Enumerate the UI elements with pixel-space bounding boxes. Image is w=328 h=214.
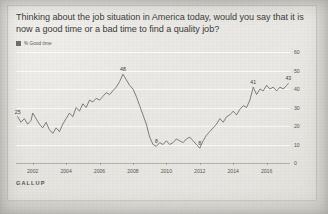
x-axis-line	[16, 163, 290, 164]
data-label-41-4: 41	[250, 79, 256, 85]
x-tick-mark-2012	[200, 163, 201, 165]
x-tick-label-2014: 2014	[228, 168, 239, 174]
source-logo: GALLUP	[16, 180, 46, 186]
y-tick-label-20: 20	[294, 123, 300, 129]
x-tick-mark-2008	[133, 163, 134, 165]
y-tick-label-60: 60	[294, 49, 300, 55]
y-tick-label-10: 10	[294, 142, 300, 148]
x-tick-label-2002: 2002	[27, 168, 38, 174]
y-tick-label-30: 30	[294, 105, 300, 111]
x-tick-mark-2004	[66, 163, 67, 165]
legend-swatch-good-time	[16, 41, 21, 46]
x-tick-label-2004: 2004	[60, 168, 71, 174]
x-tick-mark-2010	[166, 163, 167, 165]
page-title: Thinking about the job situation in Amer…	[16, 11, 308, 36]
series-good-time	[16, 52, 290, 163]
data-label-43-5: 43	[285, 75, 291, 81]
x-tick-label-2006: 2006	[94, 168, 105, 174]
y-tick-label-50: 50	[294, 68, 300, 74]
x-tick-mark-2002	[33, 163, 34, 165]
x-tick-mark-2016	[267, 163, 268, 165]
x-tick-label-2012: 2012	[194, 168, 205, 174]
x-tick-mark-2014	[233, 163, 234, 165]
y-tick-label-40: 40	[294, 86, 300, 92]
x-tick-label-2016: 2016	[261, 168, 272, 174]
plot-area: 0102030405060 20022004200620082010201220…	[16, 52, 290, 163]
x-tick-mark-2006	[100, 163, 101, 165]
data-label-48-1: 48	[120, 66, 126, 72]
data-label-25-0: 25	[15, 109, 21, 115]
x-tick-label-2010: 2010	[161, 168, 172, 174]
chart-figure: Thinking about the job situation in Amer…	[0, 0, 328, 214]
x-tick-label-2008: 2008	[127, 168, 138, 174]
chart-legend: % Good time	[16, 41, 52, 46]
legend-label-good-time: % Good time	[24, 41, 52, 46]
data-label-8-3: 8	[198, 140, 201, 146]
data-label-8-2: 8	[155, 138, 158, 144]
y-tick-label-0: 0	[294, 160, 297, 166]
